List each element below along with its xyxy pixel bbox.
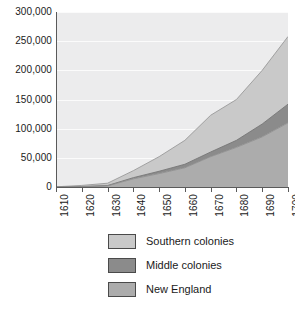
y-axis-tick-label: 300,000 [0,7,52,17]
legend-label-middle-colonies: Middle colonies [146,260,222,271]
population-growth-area-chart: 300,000250,000200,000150,000100,00050,00… [0,0,295,309]
x-axis-tick [288,188,289,192]
x-axis-tick [236,188,237,192]
y-axis-tick-label: 0 [0,182,52,192]
x-axis-tick [211,188,212,192]
y-axis-labels: 300,000250,000200,000150,000100,00050,00… [0,0,52,200]
x-axis-tick-label: 1670 [215,194,225,217]
x-axis-tick-label: 1620 [86,194,96,217]
legend-swatch-southern-colonies [108,234,136,249]
x-axis-tick-label: 1630 [112,194,122,217]
x-axis-tick-label: 1680 [240,194,250,217]
x-axis-tick-label: 1700 [292,194,295,217]
legend-item-middle-colonies[interactable]: Middle colonies [108,257,288,274]
x-axis-tick-label: 1650 [163,194,173,217]
chart-legend: Southern colonies Middle colonies New En… [108,233,288,305]
x-axis-tick [133,188,134,192]
x-axis-tick-label: 1660 [189,194,199,217]
y-axis-tick-label: 150,000 [0,95,52,105]
x-axis-tick [185,188,186,192]
plot-area [56,12,288,187]
x-axis-tick-label: 1690 [266,194,276,217]
legend-item-new-england[interactable]: New England [108,281,288,298]
legend-swatch-new-england [108,282,136,297]
stacked-area-series [56,12,288,187]
x-axis-tick-label: 1610 [60,194,70,217]
x-axis-tick [56,188,57,192]
x-axis-tick-label: 1640 [137,194,147,217]
x-axis-tick [82,188,83,192]
legend-label-new-england: New England [146,284,211,295]
x-axis-tick [108,188,109,192]
x-axis-tick [159,188,160,192]
y-axis-tick-label: 50,000 [0,153,52,163]
y-axis-tick-label: 100,000 [0,124,52,134]
x-axis-line [56,187,289,188]
y-axis-tick-label: 250,000 [0,36,52,46]
legend-label-southern-colonies: Southern colonies [146,236,234,247]
legend-swatch-middle-colonies [108,258,136,273]
legend-item-southern-colonies[interactable]: Southern colonies [108,233,288,250]
y-axis-tick-label: 200,000 [0,65,52,75]
x-axis-tick [262,188,263,192]
y-axis-line [56,12,57,188]
